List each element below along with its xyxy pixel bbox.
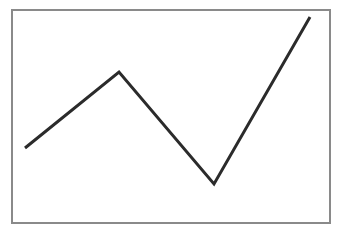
plot-border (12, 10, 330, 223)
line-chart-svg (0, 0, 343, 232)
chart-figure: Line chart with a single dark zigzag ser… (0, 0, 343, 232)
